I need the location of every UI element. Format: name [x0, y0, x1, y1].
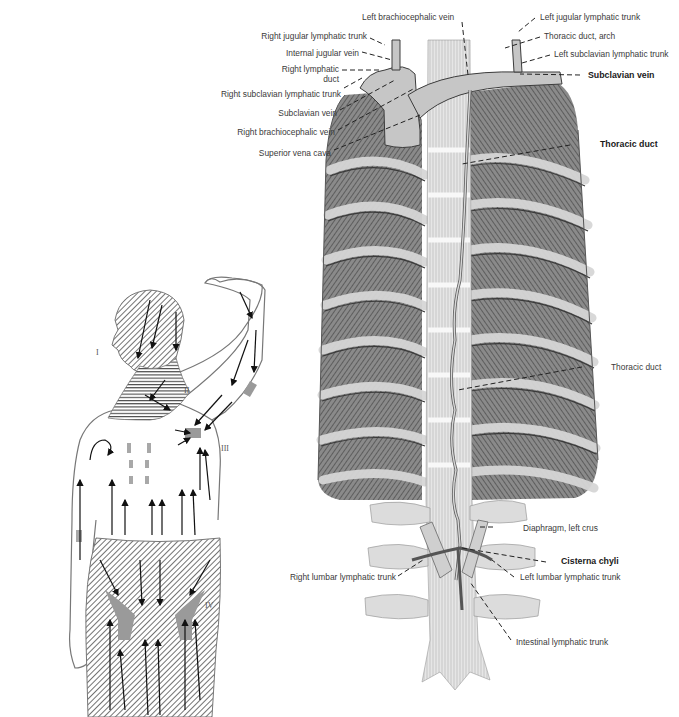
label-right-brachiocephalic-vein: Right brachiocephalic vein: [237, 127, 335, 137]
label-right-lymphatic-duct-line1: Right lymphatic: [282, 64, 339, 74]
region-label-iv: IV: [205, 601, 213, 610]
label-right-subclavian-lymphatic-trunk: Right subclavian lymphatic trunk: [221, 89, 341, 99]
body-figure: [70, 277, 265, 717]
anatomy-illustration: [0, 0, 679, 717]
label-left-subclavian-lymphatic-trunk: Left subclavian lymphatic trunk: [554, 49, 669, 59]
label-right-lymphatic-duct: Right lymphatic duct: [282, 64, 339, 84]
region-label-iii: III: [221, 444, 229, 453]
label-diaphragm-left-crus: Diaphragm, left crus: [523, 523, 598, 533]
region-label-ii: II: [184, 386, 189, 395]
label-intestinal-lymphatic-trunk: Intestinal lymphatic trunk: [516, 637, 608, 647]
label-thoracic-duct-lower: Thoracic duct: [611, 362, 661, 372]
region-label-i: I: [96, 348, 99, 357]
label-subclavian-vein-right: Subclavian vein: [278, 108, 337, 118]
label-left-lumbar-lymphatic-trunk: Left lumbar lymphatic trunk: [520, 572, 621, 582]
label-thoracic-duct-upper: Thoracic duct: [600, 139, 658, 149]
label-left-jugular-lymphatic-trunk: Left jugular lymphatic trunk: [540, 12, 640, 22]
label-right-jugular-lymphatic-trunk: Right jugular lymphatic trunk: [261, 31, 367, 41]
label-internal-jugular-vein: Internal jugular vein: [286, 48, 359, 58]
label-superior-vena-cava: Superior vena cava: [259, 148, 331, 158]
label-right-lymphatic-duct-line2: duct: [323, 74, 339, 84]
label-right-lumbar-lymphatic-trunk: Right lumbar lymphatic trunk: [290, 572, 396, 582]
label-subclavian-vein: Subclavian vein: [588, 70, 655, 80]
label-cisterna-chyli: Cisterna chyli: [561, 556, 619, 566]
label-left-brachiocephalic-vein: Left brachiocephalic vein: [362, 12, 454, 22]
label-thoracic-duct-arch: Thoracic duct, arch: [544, 31, 615, 41]
